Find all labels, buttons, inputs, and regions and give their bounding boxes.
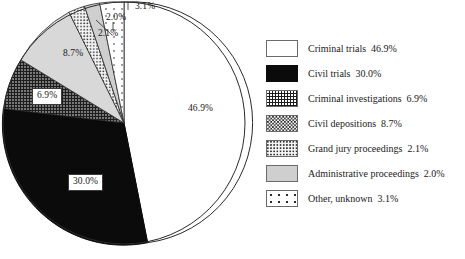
pie-plot-area: 46.9% 30.0% 6.9% 8.7% 2.1% 2.0% 3.1%	[0, 0, 255, 259]
legend-label-criminal-investigations: Criminal investigations6.9%	[308, 93, 427, 104]
legend-label-text: Other, unknown	[308, 193, 373, 204]
legend-percent: 30.0%	[356, 68, 382, 79]
legend-percent: 46.9%	[371, 43, 397, 54]
legend-label-grand-jury-proceedings: Grand jury proceedings2.1%	[308, 143, 428, 154]
legend-swatch-civil-depositions	[266, 115, 298, 132]
legend-label-text: Criminal trials	[308, 43, 366, 54]
legend-swatch-grand-jury-proceedings	[266, 140, 298, 157]
legend-percent: 3.1%	[378, 193, 399, 204]
legend-swatch-civil-trials	[266, 65, 298, 82]
legend-item-administrative-proceedings: Administrative proceedings2.0%	[266, 161, 465, 186]
slice-value-criminal-investigations: 6.9%	[32, 88, 62, 105]
legend-percent: 8.7%	[381, 118, 402, 129]
legend-swatch-criminal-investigations	[266, 90, 298, 107]
legend-swatch-administrative-proceedings	[266, 165, 298, 182]
legend-percent: 2.1%	[407, 143, 428, 154]
legend: Criminal trials46.9% Civil trials30.0% C…	[266, 36, 465, 211]
legend-label-administrative-proceedings: Administrative proceedings2.0%	[308, 168, 445, 179]
legend-label-text: Civil trials	[308, 68, 351, 79]
legend-label-text: Grand jury proceedings	[308, 143, 402, 154]
slice-value-civil-trials: 30.0%	[68, 174, 103, 191]
slice-value-administrative-proceedings: 2.0%	[104, 12, 128, 24]
legend-swatch-criminal-trials	[266, 40, 298, 57]
legend-label-civil-trials: Civil trials30.0%	[308, 68, 381, 79]
legend-percent: 2.0%	[424, 168, 445, 179]
legend-label-text: Civil depositions	[308, 118, 376, 129]
slice-value-other-unknown: 3.1%	[133, 1, 157, 13]
legend-item-other-unknown: Other, unknown3.1%	[266, 186, 465, 211]
slice-value-civil-depositions: 8.7%	[61, 48, 85, 60]
legend-item-civil-depositions: Civil depositions8.7%	[266, 111, 465, 136]
legend-percent: 6.9%	[407, 93, 428, 104]
legend-item-civil-trials: Civil trials30.0%	[266, 61, 465, 86]
legend-swatch-other-unknown	[266, 190, 298, 207]
pie-slice-criminal-trials	[124, 2, 253, 243]
legend-item-grand-jury-proceedings: Grand jury proceedings2.1%	[266, 136, 465, 161]
pie-svg	[0, 0, 255, 259]
legend-item-criminal-trials: Criminal trials46.9%	[266, 36, 465, 61]
legend-label-text: Criminal investigations	[308, 93, 402, 104]
slice-value-criminal-trials: 46.9%	[186, 103, 215, 115]
legend-item-criminal-investigations: Criminal investigations6.9%	[266, 86, 465, 111]
legend-label-text: Administrative proceedings	[308, 168, 419, 179]
legend-label-civil-depositions: Civil depositions8.7%	[308, 118, 402, 129]
pie-chart-figure: 46.9% 30.0% 6.9% 8.7% 2.1% 2.0% 3.1% Cri…	[0, 0, 465, 259]
slice-value-grand-jury-proceedings: 2.1%	[96, 28, 120, 40]
legend-label-criminal-trials: Criminal trials46.9%	[308, 43, 397, 54]
legend-label-other-unknown: Other, unknown3.1%	[308, 193, 398, 204]
